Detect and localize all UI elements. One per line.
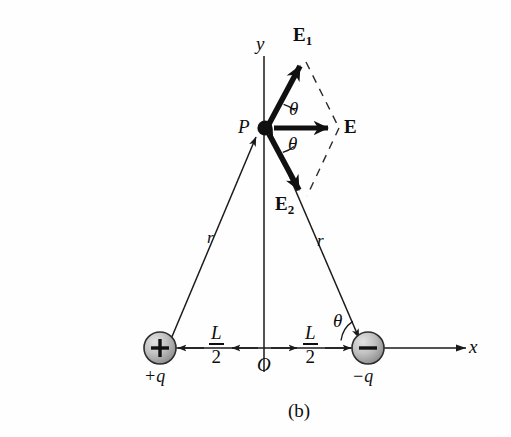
x-axis-label: x [469, 337, 477, 356]
dashed-line-lower [307, 128, 339, 196]
point-P-marker [257, 120, 272, 135]
E1-label-subscript: 1 [306, 33, 313, 48]
dipole-figure: y x P O E1 E2 E θ θ θ r r L 2 L 2 +q −q … [0, 0, 511, 437]
half-L-left-numerator: L [209, 323, 224, 343]
r-left-label: r [207, 229, 214, 246]
half-L-right-denominator: 2 [303, 346, 318, 366]
E-label-main: E [344, 116, 357, 137]
figure-caption: (b) [288, 401, 310, 420]
dashed-line-upper [306, 62, 339, 128]
E2-label-main: E [275, 193, 288, 214]
dipole-diagram-canvas [0, 0, 511, 437]
E2-label-subscript: 2 [288, 202, 295, 217]
fraction-bar [209, 343, 224, 345]
theta-axis-label: θ [333, 311, 342, 330]
half-L-right-fraction: L 2 [303, 323, 318, 366]
theta-axis-arc [341, 321, 353, 340]
half-L-right-label: L 2 [303, 323, 318, 366]
half-L-right-numerator: L [303, 323, 318, 343]
half-L-left-fraction: L 2 [209, 323, 224, 366]
E-resultant-label: E [344, 117, 357, 136]
negative-charge-label: −q [352, 367, 373, 385]
y-axis-label: y [256, 34, 264, 53]
E1-label: E1 [293, 25, 312, 47]
E1-label-main: E [293, 24, 306, 45]
point-P-label: P [238, 117, 250, 136]
theta-upper-label: θ [289, 99, 298, 118]
E2-label: E2 [275, 194, 294, 216]
half-L-left-denominator: 2 [209, 346, 224, 366]
theta-lower-label: θ [288, 134, 297, 153]
half-L-left-label: L 2 [209, 323, 224, 366]
origin-label: O [257, 355, 271, 374]
x-axis-arrowhead [456, 345, 466, 352]
r-right-label: r [317, 232, 324, 249]
fraction-bar [303, 343, 318, 345]
positive-charge-label: +q [144, 367, 165, 385]
